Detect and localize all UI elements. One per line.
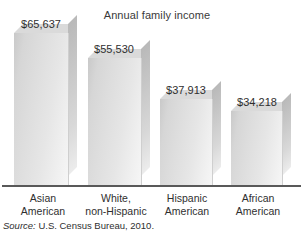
x-tick-label-hispanic-american: Hispanic American <box>152 192 222 217</box>
source-prefix: Source: <box>3 220 36 231</box>
value-label-asian-american: $65,637 <box>10 18 72 30</box>
bar-white-non-hispanic[interactable] <box>88 58 141 185</box>
x-tick-label-line-2: American <box>8 205 78 218</box>
bar-hispanic-american[interactable] <box>160 99 212 185</box>
source-text: U.S. Census Bureau, 2010. <box>38 220 154 231</box>
source-note: Source: U.S. Census Bureau, 2010. <box>3 220 154 231</box>
x-tick-label-line-1: Hispanic <box>152 192 222 205</box>
bar-asian-american[interactable] <box>14 33 68 185</box>
x-axis-line <box>2 185 301 187</box>
bar-african-american[interactable] <box>231 111 282 185</box>
x-tick-label-asian-american: Asian American <box>8 192 78 217</box>
value-label-african-american: $34,218 <box>226 96 288 108</box>
plot-area: $65,637 $55,530 $37,913 $34,218 <box>0 0 303 188</box>
bar-front-face <box>14 33 69 185</box>
x-tick-label-line-1: Asian <box>8 192 78 205</box>
x-tick-label-line-1: African <box>223 192 293 205</box>
x-tick-label-line-1: White, <box>79 192 153 205</box>
bar-side-face <box>141 40 150 176</box>
bar-side-face <box>68 15 77 176</box>
x-tick-label-line-2: American <box>152 205 222 218</box>
x-tick-label-line-2: non-Hispanic <box>79 205 153 218</box>
value-label-white-non-hispanic: $55,530 <box>83 43 145 55</box>
bar-front-face <box>231 111 283 185</box>
x-tick-label-african-american: African American <box>223 192 293 217</box>
x-tick-label-white-non-hispanic: White, non-Hispanic <box>79 192 153 217</box>
x-tick-label-line-2: American <box>223 205 293 218</box>
bar-front-face <box>160 99 213 185</box>
bar-front-face <box>88 58 142 185</box>
bar-chart: Annual family income $65,637 $55,530 $37… <box>0 0 303 233</box>
value-label-hispanic-american: $37,913 <box>155 84 217 96</box>
